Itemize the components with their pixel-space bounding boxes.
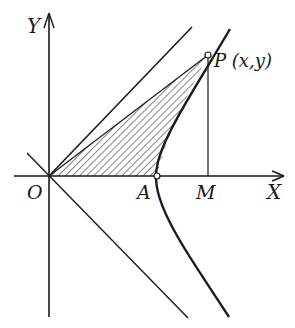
point-a (154, 173, 160, 179)
label-x-axis: X (267, 182, 281, 202)
point-p (205, 52, 211, 58)
label-m: M (196, 183, 215, 202)
label-origin: O (27, 183, 43, 202)
hyperbola-figure: Y X O A M P (x,y) (0, 0, 295, 328)
label-a: A (137, 183, 151, 202)
asymptote-lower (27, 153, 188, 318)
label-y-axis: Y (27, 16, 40, 36)
label-p: P (x,y) (214, 52, 272, 70)
